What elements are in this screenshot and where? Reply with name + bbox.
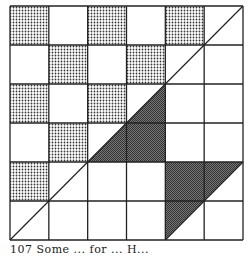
dotted-cell [49,45,88,84]
dotted-cell [165,6,204,45]
dotted-cell [88,6,127,45]
dotted-cell [10,6,49,45]
dotted-cell [88,84,127,123]
figure-caption: 107 Some ... for ... H... [10,243,149,256]
dotted-cell [10,162,49,201]
dotted-cell [10,84,49,123]
dotted-cell [49,123,88,162]
dotted-cell [127,45,166,84]
